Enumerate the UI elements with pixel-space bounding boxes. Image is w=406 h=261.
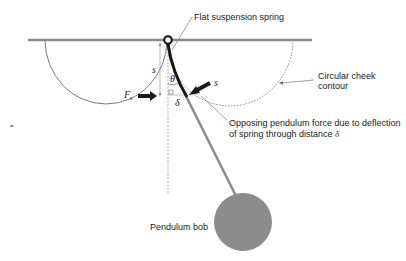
leader-flat-spring bbox=[172, 17, 192, 50]
fs-arrow-head bbox=[150, 91, 157, 101]
cheek-contour-label-2: contour bbox=[318, 81, 348, 91]
fs-arrow-shaft bbox=[138, 94, 151, 98]
leader-cheek-arrowhead bbox=[279, 81, 283, 85]
pendulum-bob bbox=[214, 193, 272, 251]
leader-cheek-contour bbox=[281, 80, 314, 83]
cheek-contour-label-1: Circular cheek bbox=[318, 71, 376, 81]
delta-label: δ bbox=[175, 97, 180, 108]
s-dimension-arrowhead-bottom bbox=[159, 93, 162, 97]
s-force-arrow-shaft bbox=[197, 83, 210, 90]
s-right-label: s bbox=[214, 77, 218, 88]
leader-opposing-force bbox=[201, 96, 227, 120]
s-dimension-arrowhead-top bbox=[159, 42, 162, 46]
pendulum-rod bbox=[184, 92, 236, 196]
opposing-force-label-2: of spring through distance δ bbox=[229, 129, 340, 139]
flat-suspension-spring bbox=[168, 44, 187, 97]
pivot-point bbox=[164, 36, 172, 44]
theta-label: θ bbox=[170, 73, 175, 84]
s-left-label: s bbox=[152, 64, 156, 75]
flat-spring-label: Flat suspension spring bbox=[194, 12, 284, 22]
margin-mark: = bbox=[10, 123, 14, 129]
pendulum-bob-label: Pendulum bob bbox=[150, 222, 208, 232]
opposing-force-label-1: Opposing pendulum force due to deflectio… bbox=[229, 118, 401, 128]
right-angle-marker bbox=[169, 90, 173, 94]
pendulum-diagram: s δ θ F s s Flat suspension spring Circu… bbox=[0, 0, 406, 261]
